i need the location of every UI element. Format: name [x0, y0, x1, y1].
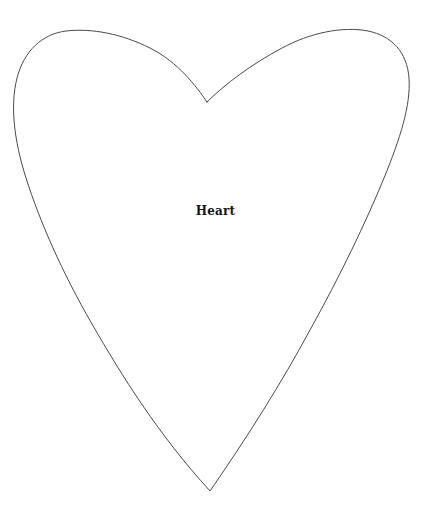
heart-shape-svg — [0, 0, 431, 509]
canvas: Heart — [0, 0, 431, 509]
shape-label-heart: Heart — [0, 204, 431, 218]
heart-outline-path — [14, 29, 410, 491]
